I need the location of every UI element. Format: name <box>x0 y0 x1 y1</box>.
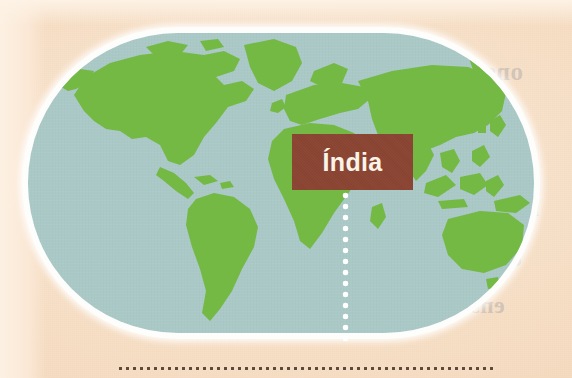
india-leader-dotted-line <box>341 190 350 346</box>
bottom-dotted-rule <box>117 366 494 371</box>
land-borneo <box>460 173 488 195</box>
land-south-america <box>186 193 258 321</box>
india-label-text: Índia <box>323 150 383 175</box>
land-europe <box>284 83 370 125</box>
land-greenland <box>244 39 302 91</box>
land-british-isles <box>270 99 286 113</box>
land-philippines <box>472 145 490 167</box>
paper-margin-top <box>0 0 572 26</box>
land-new-zealand-south <box>518 273 532 289</box>
land-tasmania <box>486 277 500 289</box>
land-arctic-isle-a <box>200 39 224 51</box>
land-central-america <box>156 167 194 199</box>
land-madagascar <box>370 203 386 229</box>
land-australia <box>442 211 524 273</box>
landmasses-group <box>28 33 534 333</box>
land-new-zealand <box>526 251 534 271</box>
world-map-figure <box>22 27 540 339</box>
india-callout-box: Índia <box>292 134 413 190</box>
land-sumatra <box>424 175 456 197</box>
map-ocean <box>28 33 534 333</box>
land-java <box>438 199 468 209</box>
land-sulawesi <box>486 175 504 197</box>
figure-page: onsisabeiucaens <box>0 0 572 378</box>
land-caribbean-a <box>194 175 218 185</box>
land-caribbean-b <box>220 181 234 189</box>
land-indochina <box>440 149 460 173</box>
land-north-america <box>74 51 254 165</box>
land-new-guinea <box>494 195 530 213</box>
